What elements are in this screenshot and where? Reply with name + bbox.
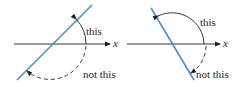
angle-diagrams: x this not this x this not this	[0, 0, 241, 87]
label-not-this-right: not this	[196, 68, 229, 80]
diagram-left: x this not this	[14, 5, 118, 80]
solid-arc-left	[76, 19, 86, 44]
blue-line-left	[17, 5, 92, 80]
x-axis-label-right: x	[222, 37, 228, 49]
x-axis-label-left: x	[112, 37, 118, 49]
diagram-right: x this not this	[127, 8, 229, 80]
solid-arc-right	[158, 13, 204, 44]
label-this-left: this	[86, 25, 102, 37]
label-this-right: this	[200, 16, 216, 28]
label-not-this-left: not this	[83, 68, 116, 80]
dashed-arc-left	[27, 46, 86, 79]
